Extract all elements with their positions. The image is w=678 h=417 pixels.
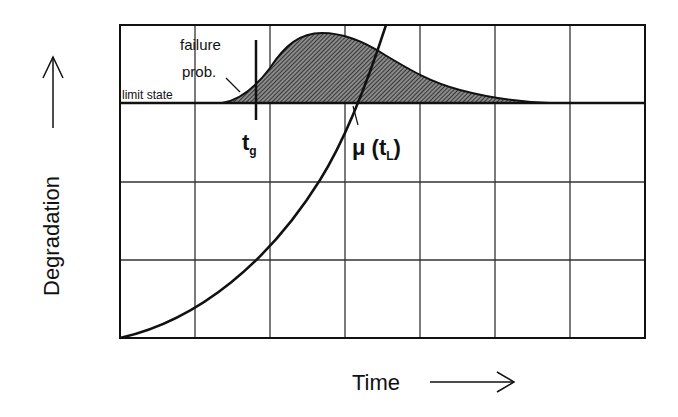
x-axis-label: Time — [352, 370, 400, 395]
failure-label: failure — [180, 36, 221, 53]
mu-t-l-label: μ (tL) — [352, 135, 401, 163]
failure-prob-leader — [226, 78, 240, 92]
failure-probability-density — [222, 33, 550, 103]
prob-label: prob. — [182, 63, 216, 80]
right-arrow-icon — [430, 372, 514, 392]
t-g-label: tg — [242, 130, 257, 158]
up-arrow-icon — [43, 57, 63, 128]
limit-state-label: limit state — [122, 88, 173, 102]
y-axis-label: Degradation — [39, 176, 64, 296]
degradation-diagram: failure prob. limit state tg μ (tL) Time… — [0, 0, 678, 417]
